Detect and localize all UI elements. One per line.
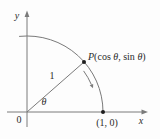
point-p-sin-text: , sin [118, 51, 137, 62]
x-axis-label: x [139, 116, 143, 126]
x-axis-arrowhead-icon [142, 110, 149, 115]
angle-theta-label: θ [42, 97, 47, 107]
arc-direction-arrow-shaft [84, 71, 92, 85]
x-intercept-label: (1, 0) [96, 118, 118, 128]
point-p-dot [82, 60, 86, 64]
y-axis-arrowhead-icon [25, 11, 30, 18]
radius-length-label: 1 [50, 71, 55, 81]
point-p-cos-text: (cos [94, 51, 113, 62]
y-axis-label: y [15, 11, 19, 21]
point-p-label: P(cos θ, sin θ) [88, 52, 146, 62]
unit-circle-figure: y x 0 θ 1 (1, 0) P(cos θ, sin θ) [0, 0, 160, 139]
figure-geometry [0, 0, 160, 139]
origin-label: 0 [17, 115, 22, 125]
unit-circle-arc [19, 36, 103, 112]
point-p-close-paren: ) [142, 51, 145, 62]
point-x-intercept-dot [101, 110, 105, 114]
radius-line [27, 62, 84, 112]
